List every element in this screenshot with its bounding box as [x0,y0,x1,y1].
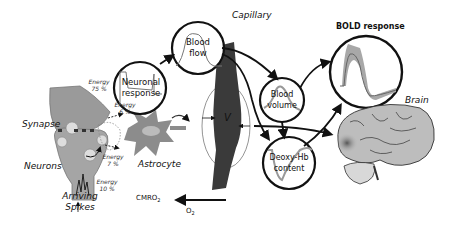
energy-value: 10 % [94,185,120,192]
volume-symbol: V [224,112,231,123]
brain-illustration [336,104,434,184]
energy-value: 6 % [112,108,138,115]
diagram-canvas: Capillary BOLD response Brain Synapse Ne… [0,0,458,230]
energy-value: 7 % [100,160,126,167]
deoxy-hb-line1: Deoxy-Hb [264,152,314,163]
neuronal-response-line2: response [116,88,166,99]
cmro2-text: CMRO [136,194,157,202]
energy-label-astrocyte-bottom: Energy 7 % [100,153,126,167]
astrocyte-shape [124,110,188,156]
cmro2-sub: 2 [157,197,160,203]
bold-response-circle [330,36,402,108]
arriving-spikes-label: Arriving Spikes [60,191,100,213]
energy-label-spikes: Energy 10 % [94,178,120,192]
cmro2-label: CMRO2 [136,194,161,203]
brain-label: Brain [405,95,429,105]
energy-label: Energy [112,101,138,108]
neuronal-response-line1: Neuronal [116,77,166,88]
blood-flow-line2: flow [178,48,218,59]
capillary-label: Capillary [232,10,272,20]
arriving-spikes-line1: Arriving [60,191,100,202]
synapse-label: Synapse [22,119,60,129]
energy-label: Energy [100,153,126,160]
deoxy-hb-line2: content [264,163,314,174]
bold-response-label: BOLD response [336,22,405,31]
blood-volume-text: Blood volume [262,89,302,111]
energy-label: Energy [94,178,120,185]
blood-flow-text: Blood flow [178,37,218,59]
blood-volume-line2: volume [262,100,302,111]
energy-label-presynaptic: Energy 75 % [86,78,112,92]
energy-value: 75 % [86,85,112,92]
o2-label: O2 [186,207,195,216]
blood-volume-line1: Blood [262,89,302,100]
astrocyte-label: Astrocyte [138,159,181,169]
energy-label-astrocyte-top: Energy 6 % [112,101,138,115]
neurons-label: Neurons [24,161,62,171]
blood-flow-line1: Blood [178,37,218,48]
neuronal-response-text: Neuronal response [116,77,166,99]
arriving-spikes-line2: Spikes [60,202,100,213]
o2-sub: 2 [192,210,195,216]
deoxy-hb-text: Deoxy-Hb content [264,152,314,174]
energy-label: Energy [86,78,112,85]
